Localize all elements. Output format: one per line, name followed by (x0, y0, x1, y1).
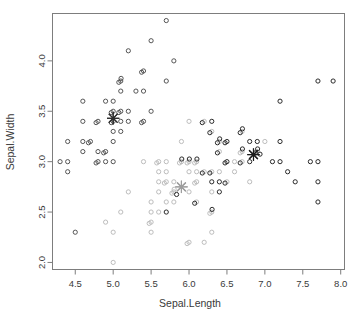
y-axis-label: Sepal.Width (4, 114, 16, 171)
x-tick-label: 8.0 (334, 278, 347, 289)
y-tick-label: 2.5 (36, 205, 47, 218)
center-cluster-3 (247, 148, 259, 160)
x-axis-label: Sepal.Length (159, 297, 221, 309)
x-tick-label: 6.0 (182, 278, 195, 289)
y-tick-label: 2.0 (36, 256, 47, 269)
center-dot (180, 185, 183, 188)
x-tick-label: 5.5 (144, 278, 157, 289)
y-tick-label: 4.0 (36, 54, 47, 67)
x-tick-label: 4.5 (69, 278, 82, 289)
center-cluster-2 (175, 181, 187, 193)
scatter-plot-figure: 4.55.05.56.06.57.07.58.0 2.02.53.03.54.0… (0, 0, 364, 325)
x-tick-label: 7.0 (258, 278, 271, 289)
x-tick-label: 7.5 (296, 278, 309, 289)
y-tick-label: 3.5 (36, 105, 47, 118)
y-tick-label: 3.0 (36, 155, 47, 168)
center-dot (112, 117, 115, 120)
x-tick-label: 5.0 (107, 278, 120, 289)
center-dot (252, 153, 255, 156)
center-cluster-1 (107, 112, 119, 124)
x-tick-label: 6.5 (220, 278, 233, 289)
chart-page: 4.55.05.56.06.57.07.58.0 2.02.53.03.54.0… (0, 0, 364, 325)
